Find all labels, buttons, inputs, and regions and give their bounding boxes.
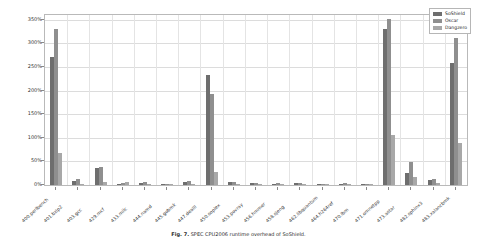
y-tick-label: 350%	[2, 16, 42, 22]
x-tick-mark	[233, 187, 234, 190]
x-tick-label: 450.soplex	[199, 203, 221, 224]
y-tick-label: 250%	[2, 63, 42, 69]
x-tick-label: 483.xalancbmk	[421, 196, 451, 224]
bar	[458, 143, 462, 185]
plot-area	[44, 14, 468, 186]
bar	[369, 184, 373, 185]
y-tick-mark	[41, 42, 44, 43]
x-tick-label: 401.bzip2	[43, 204, 64, 223]
legend-item[interactable]: Oscar	[433, 18, 467, 24]
x-tick-mark	[211, 187, 212, 190]
x-tick-label: 447.dealII	[176, 204, 197, 223]
x-tick-label: 433.milc	[110, 206, 128, 223]
y-tick-label: 50%	[2, 157, 42, 163]
caption-label: Fig. 7.	[171, 231, 189, 237]
figure-caption: Fig. 7. SPEC CPU2006 runtime overhead of…	[0, 231, 477, 237]
x-tick-label: 453.povray	[221, 202, 244, 224]
bar-group	[134, 15, 156, 185]
x-tick-mark	[100, 187, 101, 190]
x-tick-mark	[277, 187, 278, 190]
x-tick-label: 470.lbm	[332, 207, 350, 224]
legend-swatch-icon	[433, 26, 442, 30]
bar	[302, 184, 306, 185]
x-tick-mark	[344, 187, 345, 190]
bar	[436, 183, 440, 185]
y-tick-mark	[41, 184, 44, 185]
y-tick-label: 300%	[2, 39, 42, 45]
bar-group	[112, 15, 134, 185]
bar-group	[312, 15, 334, 185]
x-tick-mark	[433, 187, 434, 190]
x-tick-label: 473.astar	[376, 205, 396, 224]
x-tick-label: 445.gobmk	[154, 202, 177, 223]
y-tick-label: 200%	[2, 87, 42, 93]
y-tick-label: 150%	[2, 110, 42, 116]
caption-text: SPEC CPU2006 runtime overhead of SoShiel…	[191, 231, 306, 237]
bar-group	[67, 15, 89, 185]
x-tick-label: 403.gcc	[65, 207, 82, 223]
legend-item[interactable]: SoShield	[433, 11, 467, 17]
bar	[58, 153, 62, 185]
legend-label: Dangzero	[445, 25, 467, 31]
x-tick-mark	[322, 187, 323, 190]
bar	[169, 184, 173, 185]
bar-group	[156, 15, 178, 185]
bar	[147, 184, 151, 185]
legend-swatch-icon	[433, 19, 442, 23]
legend-item[interactable]: Dangzero	[433, 25, 467, 31]
y-tick-mark	[41, 66, 44, 67]
bar	[391, 135, 395, 185]
bar-group	[334, 15, 356, 185]
bar-group	[200, 15, 222, 185]
x-axis-labels: 400.perlbench401.bzip2403.gcc429.mcf433.…	[44, 187, 468, 233]
bar-group	[245, 15, 267, 185]
bar	[347, 184, 351, 185]
x-tick-label: 458.sjeng	[265, 204, 285, 223]
x-tick-label: 482.sphinx3	[398, 200, 423, 223]
x-tick-label: 456.hmmer	[243, 202, 267, 224]
legend-swatch-icon	[433, 12, 442, 16]
bar-group	[378, 15, 400, 185]
x-tick-mark	[188, 187, 189, 190]
bar-group	[89, 15, 111, 185]
bar	[191, 184, 195, 185]
legend-label: SoShield	[445, 11, 465, 17]
bar-group	[45, 15, 67, 185]
bar	[214, 172, 218, 185]
y-tick-mark	[41, 113, 44, 114]
x-tick-mark	[366, 187, 367, 190]
x-tick-label: 429.mcf	[88, 207, 106, 224]
bar-group	[223, 15, 245, 185]
x-tick-mark	[166, 187, 167, 190]
bar-group	[356, 15, 378, 185]
legend-label: Oscar	[445, 18, 458, 24]
bar-group	[445, 15, 467, 185]
bar-group	[400, 15, 422, 185]
bar	[325, 184, 329, 185]
figure-container: Runtime overhead 0%50%100%150%200%250%30…	[0, 0, 477, 240]
x-tick-mark	[255, 187, 256, 190]
y-tick-label: 100%	[2, 134, 42, 140]
bar	[413, 177, 417, 185]
x-tick-mark	[455, 187, 456, 190]
y-tick-mark	[41, 90, 44, 91]
bar	[236, 184, 240, 185]
legend: SoShieldOscarDangzero	[429, 8, 471, 34]
y-tick-label: 0%	[2, 181, 42, 187]
bar	[103, 182, 107, 185]
x-tick-mark	[410, 187, 411, 190]
y-axis-ticks: 0%50%100%150%200%250%300%350%	[0, 14, 42, 186]
bar	[125, 182, 129, 185]
bar-group	[178, 15, 200, 185]
y-tick-mark	[41, 137, 44, 138]
y-tick-mark	[41, 19, 44, 20]
bar	[258, 184, 262, 185]
bar-group	[423, 15, 445, 185]
y-tick-mark	[41, 160, 44, 161]
x-tick-mark	[77, 187, 78, 190]
bar	[80, 184, 84, 185]
bar	[280, 184, 284, 185]
x-tick-mark	[299, 187, 300, 190]
x-tick-mark	[144, 187, 145, 190]
x-tick-mark	[55, 187, 56, 190]
